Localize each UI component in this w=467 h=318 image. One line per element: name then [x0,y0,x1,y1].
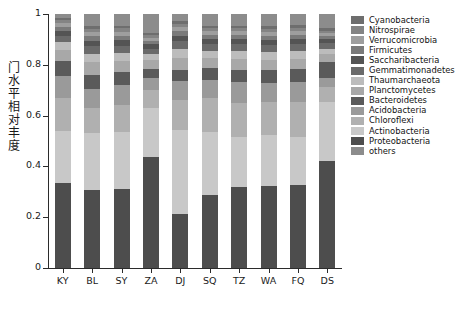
legend-label: Thaumarchaeota [369,76,440,85]
y-tick-mark [43,268,48,269]
bar-segment [172,100,188,129]
y-axis-title: 门水平相对丰度 [6,62,22,153]
bar-segment [290,102,306,136]
legend-swatch-icon [351,137,364,145]
bar-segment [172,214,188,268]
legend-item[interactable]: others [351,146,463,156]
bar-sy[interactable] [114,14,130,268]
bar-segment [319,54,335,62]
x-tick-label: WA [261,275,276,286]
legend-item[interactable]: Gemmatimonadetes [351,65,463,75]
bar-segment [172,58,188,71]
legend-swatch-icon [351,87,364,95]
bar-segment [202,58,218,68]
legend-swatch-icon [351,107,364,115]
x-tick-label: BL [86,275,98,286]
x-tick-mark [180,268,181,273]
bar-segment [290,69,306,82]
bar-segment [143,69,159,78]
bar-segment [319,87,335,101]
bar-segment [202,195,218,268]
bar-segment [202,44,218,51]
bar-dj[interactable] [172,14,188,268]
bar-segment [114,46,130,53]
chart-legend: CyanobacteriaNitrospiraeVerrucomicrobiaF… [351,15,463,156]
x-tick-label: ZA [144,275,157,286]
bar-segment [114,72,130,85]
legend-item[interactable]: Thaumarchaeota [351,76,463,86]
bar-segment [290,185,306,268]
legend-item[interactable]: Planctomycetes [351,86,463,96]
x-tick-mark [122,268,123,273]
bar-segment [143,78,159,90]
y-tick-label: 1 [35,7,41,18]
bar-segment [143,157,159,268]
x-tick-mark [92,268,93,273]
bar-ds[interactable] [319,14,335,268]
legend-item[interactable]: Nitrospirae [351,25,463,35]
legend-swatch-icon [351,16,364,24]
bar-segment [55,42,71,50]
bar-segment [202,51,218,58]
legend-item[interactable]: Bacteroidetes [351,96,463,106]
bar-segment [172,70,188,81]
bar-segment [172,41,188,49]
legend-item[interactable]: Saccharibacteria [351,55,463,65]
bar-segment [231,14,247,26]
bar-segment [143,108,159,157]
bar-segment [55,131,71,183]
legend-label: others [369,147,396,156]
bar-fq[interactable] [290,14,306,268]
legend-swatch-icon [351,67,364,75]
legend-item[interactable]: Verrucomicrobia [351,35,463,45]
bar-segment [143,90,159,108]
legend-item[interactable]: Proteobacteria [351,136,463,146]
x-tick-label: TZ [233,275,245,286]
y-tick-label: 0.2 [26,210,41,221]
bar-segment [290,59,306,70]
legend-item[interactable]: Acidobacteria [351,106,463,116]
x-tick-mark [269,268,270,273]
bar-za[interactable] [143,14,159,268]
legend-swatch-icon [351,117,364,125]
bar-bl[interactable] [84,14,100,268]
bar-segment [202,14,218,26]
legend-item[interactable]: Actinobacteria [351,126,463,136]
bar-wa[interactable] [261,14,277,268]
bar-segment [55,98,71,131]
legend-label: Nitrospirae [369,26,415,35]
bar-segment [84,190,100,267]
bar-ky[interactable] [55,14,71,268]
bar-segment [261,14,277,26]
bar-segment [231,70,247,82]
bar-segment [261,186,277,268]
legend-swatch-icon [351,46,364,54]
bar-sq[interactable] [202,14,218,268]
bar-segment [84,62,100,74]
bar-segment [84,54,100,63]
legend-item[interactable]: Firmicutes [351,45,463,55]
bar-segment [231,59,247,70]
legend-item[interactable]: Chloroflexi [351,116,463,126]
legend-item[interactable]: Cyanobacteria [351,15,463,25]
bar-segment [84,46,100,54]
x-tick-label: SQ [203,275,217,286]
legend-swatch-icon [351,77,364,85]
y-tick-label: 0.4 [26,159,41,170]
bar-segment [231,82,247,103]
bar-segment [319,14,335,28]
bar-segment [84,133,100,190]
legend-swatch-icon [351,26,364,34]
bar-segment [55,50,71,61]
bar-segment [290,137,306,186]
legend-label: Gemmatimonadetes [369,66,455,75]
bar-segment [290,82,306,102]
bar-tz[interactable] [231,14,247,268]
legend-swatch-icon [351,56,364,64]
bar-segment [261,45,277,52]
plot-area: 00.20.40.60.81 KYBLSYZADJSQTZWAFQDS [48,14,342,268]
legend-swatch-icon [351,36,364,44]
y-tick-mark [43,217,48,218]
bar-segment [231,137,247,187]
y-tick-label: 0 [35,261,41,272]
